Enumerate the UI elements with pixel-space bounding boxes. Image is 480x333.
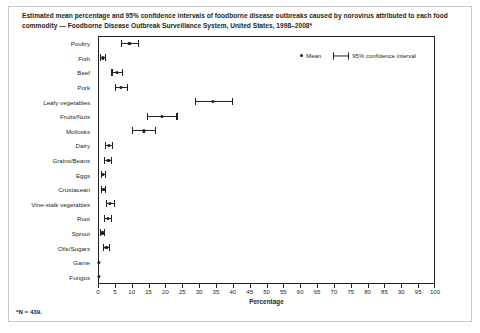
legend-item-mean: Mean — [300, 53, 321, 59]
legend-item-ci: 95% confidence interval — [333, 52, 416, 59]
x-axis-tick-label: 45 — [246, 288, 253, 296]
y-axis-label: Sprout — [72, 229, 90, 236]
x-axis-tick-label: 30 — [196, 288, 203, 296]
legend-label-mean: Mean — [306, 53, 321, 59]
figure-footnote: *N = 439. — [16, 308, 42, 315]
y-axis-category-labels: PoultryFishBeefPorkLeafy vegetablesFruit… — [14, 36, 94, 284]
x-axis-tick-label: 80 — [364, 288, 371, 296]
x-axis-tick-label: 25 — [179, 288, 186, 296]
x-axis-tick-label: 85 — [381, 288, 388, 296]
x-axis-tick-label: 65 — [314, 288, 321, 296]
y-axis-label: Fruits/Nuts — [60, 113, 90, 120]
y-axis-label: Leafy vegetables — [43, 98, 90, 105]
x-axis-tick-label: 0 — [96, 288, 99, 296]
x-axis-tick-label: 10 — [128, 288, 135, 296]
y-axis-label: Fungus — [69, 273, 90, 280]
x-axis-tick-label: 70 — [331, 288, 338, 296]
figure-norovirus-commodity: Estimated mean percentage and 95% confid… — [0, 0, 480, 333]
x-axis-tick-label: 55 — [280, 288, 287, 296]
y-axis-label: Beef — [77, 69, 90, 76]
x-axis-tick-label: 50 — [263, 288, 270, 296]
x-axis-tick-label: 60 — [297, 288, 304, 296]
y-axis-label: Game — [73, 259, 90, 266]
legend-label-ci: 95% confidence interval — [352, 53, 416, 59]
y-axis-label: Crustacean — [58, 186, 90, 193]
y-axis-label: Eggs — [76, 171, 90, 178]
y-axis-label: Vine-stalk vegetables — [31, 200, 90, 207]
plot-area — [98, 36, 435, 284]
y-axis-label: Fish — [78, 54, 90, 61]
confidence-interval-icon — [333, 52, 349, 59]
y-axis-label: Grains/Beans — [53, 157, 91, 164]
mean-dot-icon — [300, 54, 303, 57]
x-axis-tick-label: 15 — [145, 288, 152, 296]
x-axis-tick-label: 35 — [213, 288, 220, 296]
y-axis-label: Pork — [77, 84, 90, 91]
y-axis-label: Oils/Sugars — [58, 244, 90, 251]
x-axis-tick-label: 20 — [162, 288, 169, 296]
y-axis-label: Root — [77, 215, 90, 222]
y-axis-label: Dairy — [76, 142, 90, 149]
x-axis-title: Percentage — [98, 298, 435, 305]
y-axis-label: Poultry — [71, 40, 90, 47]
x-axis-tick-labels: 0510152025303540455055606570758085909510… — [98, 288, 435, 298]
x-axis-tick-label: 90 — [398, 288, 405, 296]
x-axis-tick-label: 95 — [415, 288, 422, 296]
x-axis-tick-label: 5 — [113, 288, 116, 296]
x-axis-tick-label: 75 — [347, 288, 354, 296]
figure-title: Estimated mean percentage and 95% confid… — [22, 11, 456, 30]
x-axis-tick-label: 100 — [430, 288, 440, 296]
x-axis-tick-label: 40 — [229, 288, 236, 296]
legend: Mean 95% confidence interval — [300, 52, 416, 59]
y-axis-label: Mollusks — [66, 127, 90, 134]
